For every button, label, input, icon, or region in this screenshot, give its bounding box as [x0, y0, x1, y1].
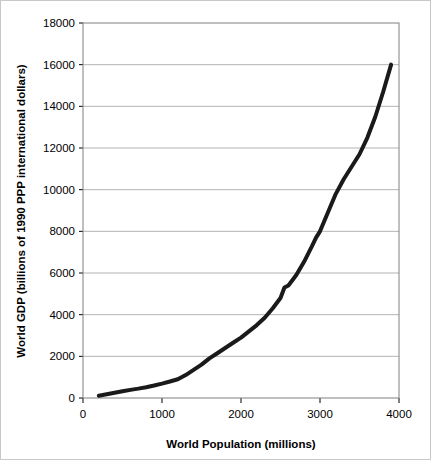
y-axis-title: World GDP (billions of 1990 PPP internat… — [15, 64, 27, 357]
y-axis-tick-label: 8000 — [49, 225, 75, 237]
y-axis-tick-label: 0 — [69, 392, 75, 404]
plot-area-background — [83, 23, 399, 398]
y-axis-tick-label: 16000 — [43, 59, 75, 71]
y-axis-tick-label: 18000 — [43, 17, 75, 29]
x-axis-tick-label: 3000 — [307, 408, 333, 420]
chart-svg: 0200040006000800010000120001400016000180… — [1, 1, 431, 460]
y-axis-tick-label: 10000 — [43, 184, 75, 196]
y-axis-tick-label: 14000 — [43, 100, 75, 112]
y-axis-tick-label: 4000 — [49, 309, 75, 321]
y-axis-tick-label: 6000 — [49, 267, 75, 279]
x-axis-title: World Population (millions) — [166, 438, 315, 450]
y-axis-tick-label: 2000 — [49, 350, 75, 362]
x-axis-tick-label: 0 — [80, 408, 86, 420]
chart-figure: 0200040006000800010000120001400016000180… — [1, 1, 431, 460]
x-axis-tick-label: 2000 — [228, 408, 254, 420]
y-axis-tick-label: 12000 — [43, 142, 75, 154]
chart-page: 0200040006000800010000120001400016000180… — [0, 0, 431, 460]
x-axis-tick-label: 4000 — [386, 408, 412, 420]
x-axis-tick-label: 1000 — [149, 408, 175, 420]
